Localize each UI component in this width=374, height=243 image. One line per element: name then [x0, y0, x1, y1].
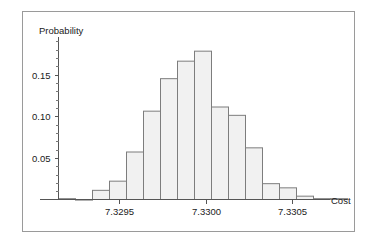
- figure-frame: [22, 11, 355, 232]
- x-tick-label: 7.3305: [270, 206, 316, 217]
- chart-figure: Probability Cost 0.050.100.15 7.32957.33…: [0, 0, 374, 243]
- y-tick-label: 0.10: [17, 111, 51, 122]
- y-axis-title: Probability: [39, 25, 83, 36]
- x-tick-label: 7.3300: [184, 206, 230, 217]
- x-tick-label: 7.3295: [97, 206, 143, 217]
- x-axis-title: Cost: [331, 195, 351, 206]
- y-tick-label: 0.05: [17, 153, 51, 164]
- y-tick-label: 0.15: [17, 70, 51, 81]
